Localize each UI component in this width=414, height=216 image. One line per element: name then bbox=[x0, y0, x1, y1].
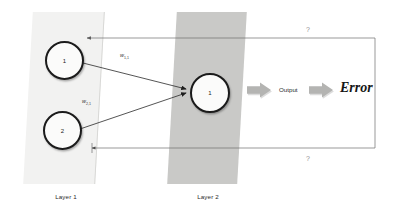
neuron-label: 1 bbox=[63, 58, 66, 64]
feedback-question-top: ? bbox=[306, 26, 310, 33]
neuron-layer2-1: 1 bbox=[190, 73, 230, 113]
connection-w11 bbox=[79, 62, 186, 89]
neuron-layer1-1: 1 bbox=[45, 41, 84, 80]
neuron-label: 2 bbox=[61, 128, 64, 134]
weight-label-w21: w2,1 bbox=[82, 98, 91, 106]
neuron-label: 1 bbox=[208, 90, 211, 96]
feedback-question-bottom: ? bbox=[306, 155, 310, 162]
block-arrow-to-output bbox=[247, 81, 273, 99]
connection-w21 bbox=[77, 93, 186, 130]
weight-label-w11: w1,1 bbox=[120, 52, 129, 60]
weight-subscript: 1,1 bbox=[124, 56, 129, 60]
neuron-layer1-2: 2 bbox=[43, 111, 82, 150]
diagram-canvas: 1 2 1 w1,1 w2,1 Layer 1 Layer 2 ? ? Outp… bbox=[0, 0, 414, 216]
block-arrow-to-error bbox=[309, 81, 335, 99]
layer-1-caption: Layer 1 bbox=[30, 193, 102, 200]
layer-2-caption: Layer 2 bbox=[172, 193, 244, 200]
weight-subscript: 2,1 bbox=[86, 102, 91, 106]
output-label: Output bbox=[279, 86, 298, 93]
error-label: Error bbox=[340, 80, 373, 96]
